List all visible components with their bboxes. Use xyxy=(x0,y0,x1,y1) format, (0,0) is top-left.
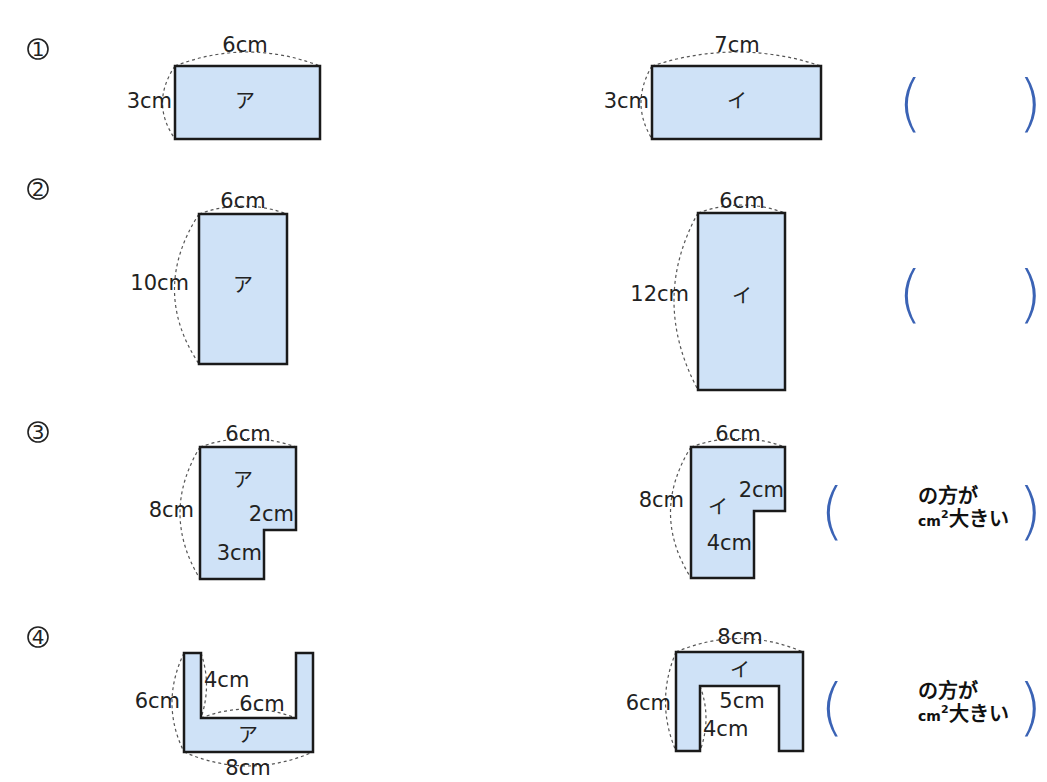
dimension-label: 6cm xyxy=(222,33,267,57)
shape-label: イ xyxy=(708,495,728,519)
dimension-label: 6cm xyxy=(239,692,284,716)
shape-label: ア xyxy=(233,273,253,297)
answer-blank-3[interactable] xyxy=(840,478,915,543)
problem-number-1: 1 xyxy=(28,37,48,61)
dimension-label: 2cm xyxy=(739,478,784,502)
svg-text:4: 4 xyxy=(32,625,45,649)
shape-label: イ xyxy=(732,284,752,308)
dimension-label: 8cm xyxy=(149,498,194,522)
dimension-label: 2cm xyxy=(249,502,294,526)
svg-text:2: 2 xyxy=(32,177,45,201)
answer-unit: cm2大きい xyxy=(918,507,1009,531)
dimension-label: 4cm xyxy=(707,531,752,555)
shape-label: イ xyxy=(730,658,750,682)
shape-i-3 xyxy=(691,447,785,578)
shape-label: ア xyxy=(235,89,255,113)
problem-3: 3 6cm 8cm 2cm 3cm ア 6cm 8cm 2cm 4cm イ ( … xyxy=(28,420,1042,579)
dimension-label: 3cm xyxy=(217,541,262,565)
dimension-label: 6cm xyxy=(626,691,671,715)
answer-blank-1[interactable] xyxy=(915,70,1015,135)
worksheet: 1 6cm 3cm ア 7cm 3cm イ ( ) 2 6cm 10cm ア xyxy=(0,0,1047,782)
dimension-label: 6cm xyxy=(220,189,265,213)
dimension-label: 7cm xyxy=(714,33,759,57)
dimension-label: 12cm xyxy=(630,282,689,306)
dimension-label: 8cm xyxy=(225,756,270,780)
answer-bracket-close: ) xyxy=(1018,66,1042,139)
answer-blank-4[interactable] xyxy=(840,672,915,737)
problem-number-2: 2 xyxy=(28,177,48,201)
answer-bracket-close: ) xyxy=(1018,670,1042,743)
shape-label: ア xyxy=(238,723,258,747)
answer-unit: cm2大きい xyxy=(918,702,1009,726)
problem-number-3: 3 xyxy=(28,420,48,444)
svg-text:1: 1 xyxy=(32,37,45,61)
dimension-arc xyxy=(671,447,692,578)
problem-1: 1 6cm 3cm ア 7cm 3cm イ ( ) xyxy=(28,33,1042,139)
answer-bracket-close: ) xyxy=(1018,474,1042,547)
dimension-label: 6cm xyxy=(719,189,764,213)
dimension-label: 4cm xyxy=(703,717,748,741)
dimension-label: 8cm xyxy=(717,625,762,649)
svg-text:3: 3 xyxy=(32,420,45,444)
dimension-label: 6cm xyxy=(135,689,180,713)
problem-number-4: 4 xyxy=(28,625,48,649)
dimension-label: 4cm xyxy=(204,668,249,692)
problem-2: 2 6cm 10cm ア 6cm 12cm イ ( ) xyxy=(28,177,1042,390)
dimension-label: 6cm xyxy=(225,422,270,446)
shape-label: ア xyxy=(233,468,253,492)
answer-blank-2[interactable] xyxy=(915,260,1015,325)
dimension-label: 3cm xyxy=(604,89,649,113)
dimension-label: 10cm xyxy=(130,271,189,295)
answer-text: の方が xyxy=(918,679,978,703)
answer-text: の方が xyxy=(918,484,978,508)
dimension-label: 8cm xyxy=(639,488,684,512)
dimension-label: 6cm xyxy=(715,422,760,446)
shape-label: イ xyxy=(727,89,747,113)
problem-4: 4 6cm 4cm 6cm 8cm ア 8cm 6cm 5cm 4cm イ ( … xyxy=(28,625,1042,780)
dimension-label: 3cm xyxy=(127,89,172,113)
answer-bracket-close: ) xyxy=(1018,257,1042,330)
dimension-label: 5cm xyxy=(719,689,764,713)
